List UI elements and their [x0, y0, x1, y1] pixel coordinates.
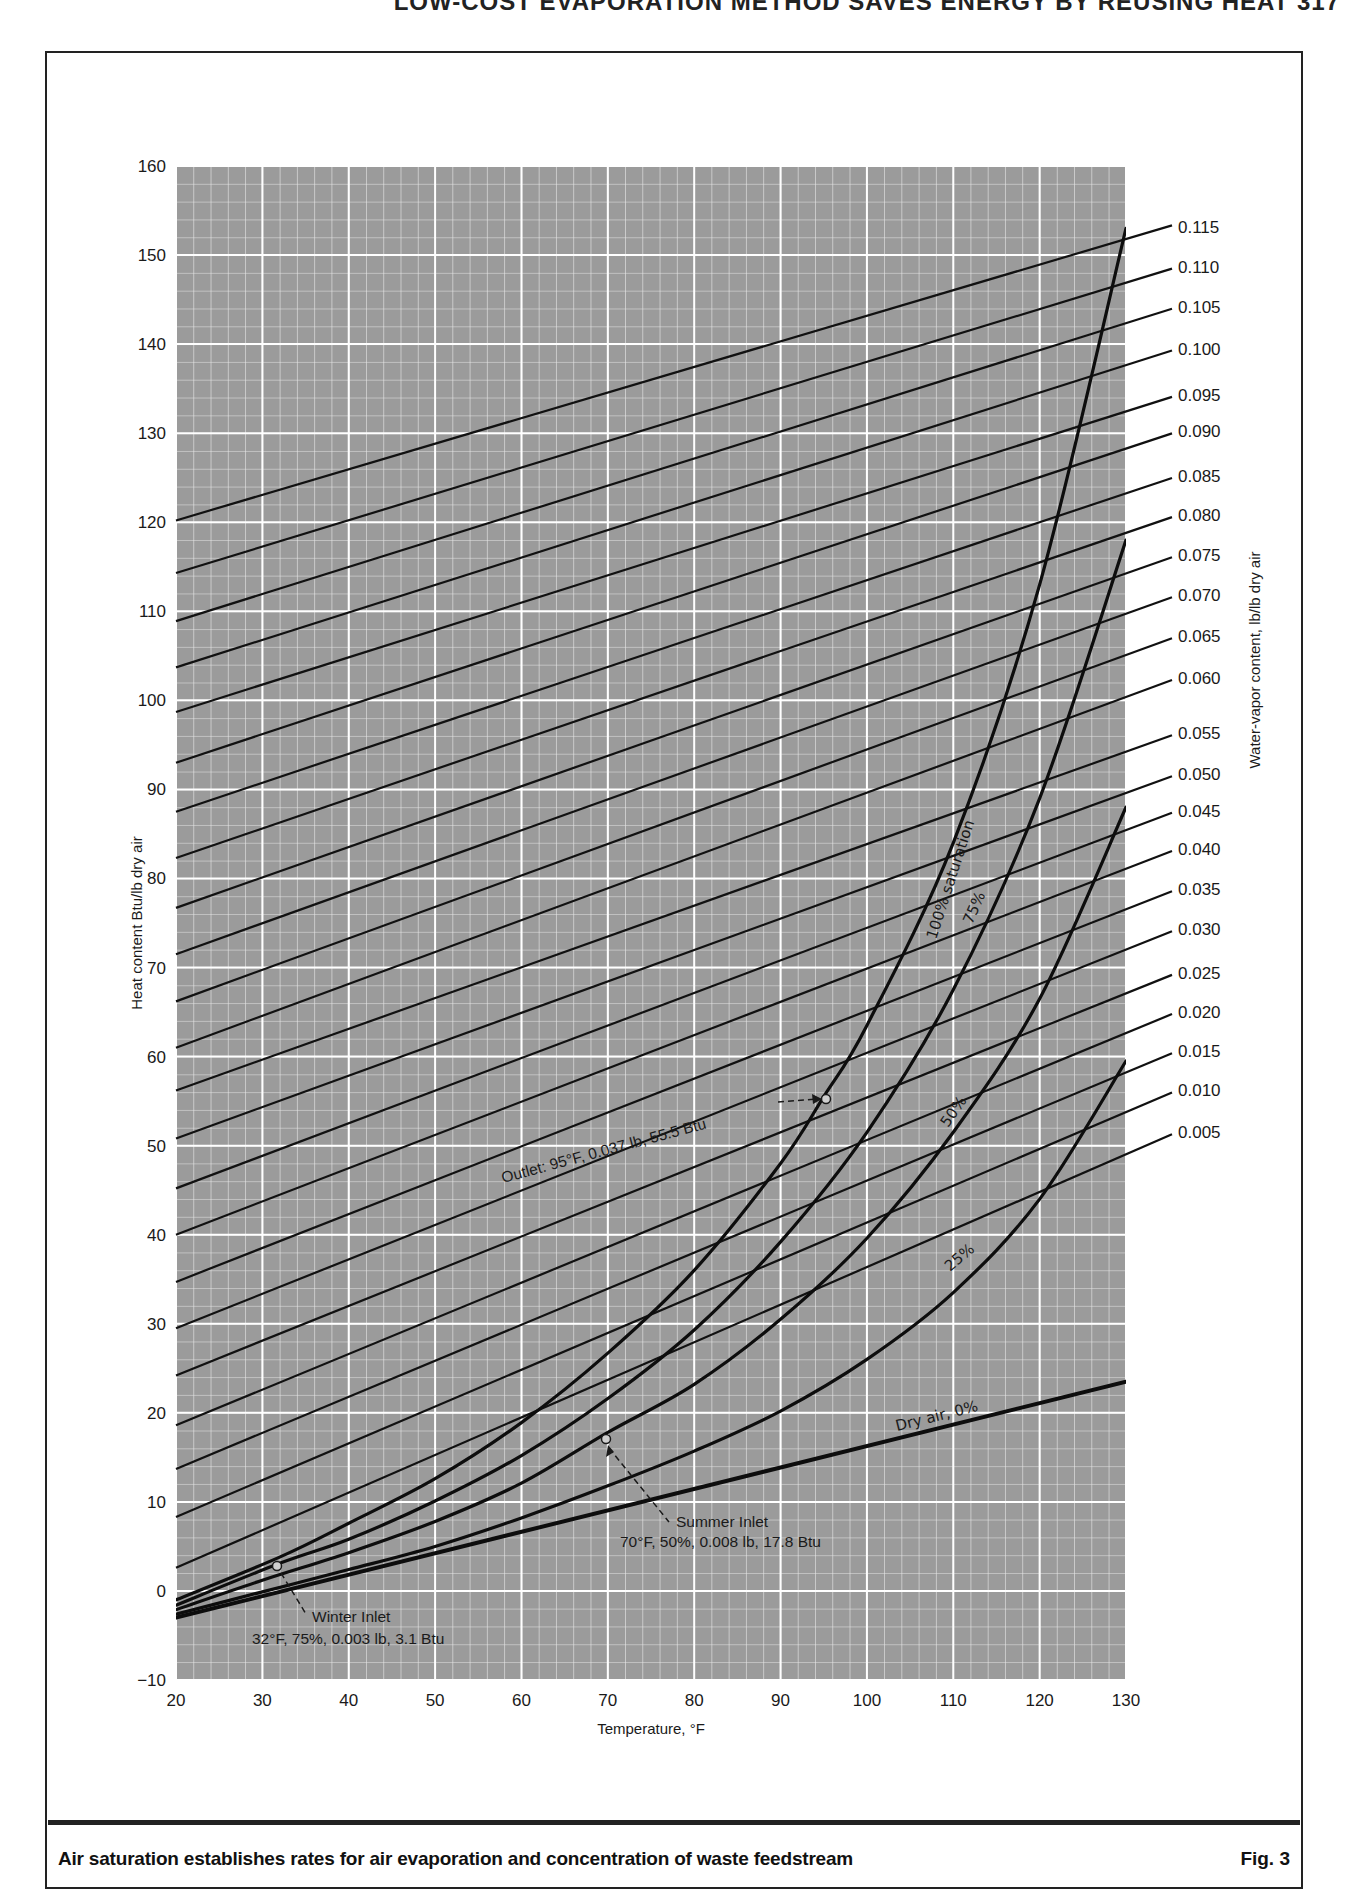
x-axis-ticks: 2030405060708090100110120130 [167, 1691, 1141, 1710]
y-tick-label: −10 [137, 1671, 166, 1690]
x-tick-label: 100 [853, 1691, 881, 1710]
water-vapor-label: 0.100 [1178, 340, 1221, 359]
y-tick-label: 100 [138, 691, 166, 710]
x-tick-label: 20 [167, 1691, 186, 1710]
y-tick-label: 50 [147, 1137, 166, 1156]
svg-text:Summer Inlet: Summer Inlet [676, 1513, 769, 1530]
figure-number: Fig. 3 [1240, 1848, 1290, 1870]
x-tick-label: 120 [1025, 1691, 1053, 1710]
y-tick-label: 130 [138, 424, 166, 443]
x-tick-label: 80 [685, 1691, 704, 1710]
y-tick-label: 20 [147, 1404, 166, 1423]
svg-text:32°F, 75%, 0.003 lb, 3.1 Btu: 32°F, 75%, 0.003 lb, 3.1 Btu [252, 1630, 444, 1647]
caption-rule [48, 1820, 1300, 1825]
water-vapor-label: 0.105 [1178, 298, 1221, 317]
water-vapor-label: 0.005 [1178, 1123, 1221, 1142]
water-vapor-label: 0.010 [1178, 1081, 1221, 1100]
water-vapor-label: 0.115 [1178, 218, 1219, 237]
water-vapor-labels: 0.1150.1100.1050.1000.0950.0900.0850.080… [1178, 218, 1221, 1143]
x-tick-label: 130 [1112, 1691, 1140, 1710]
y-tick-label: 110 [139, 602, 166, 621]
water-vapor-label: 0.065 [1178, 627, 1221, 646]
y-tick-label: 40 [147, 1226, 166, 1245]
water-vapor-label: 0.055 [1178, 724, 1221, 743]
x-tick-label: 90 [771, 1691, 790, 1710]
water-vapor-label: 0.040 [1178, 840, 1221, 859]
svg-text:70°F, 50%, 0.008 lb, 17.8 Btu: 70°F, 50%, 0.008 lb, 17.8 Btu [620, 1533, 821, 1550]
y-tick-label: 140 [138, 335, 166, 354]
water-vapor-label: 0.015 [1178, 1042, 1221, 1061]
y-tick-label: 30 [147, 1315, 166, 1334]
y-tick-label: 0 [157, 1582, 166, 1601]
water-vapor-label: 0.045 [1178, 802, 1221, 821]
water-vapor-label: 0.110 [1178, 258, 1219, 277]
svg-text:Winter Inlet: Winter Inlet [312, 1608, 391, 1625]
water-vapor-label: 0.095 [1178, 386, 1221, 405]
water-vapor-label: 0.090 [1178, 422, 1221, 441]
x-tick-label: 70 [598, 1691, 617, 1710]
water-vapor-label: 0.060 [1178, 669, 1221, 688]
y-tick-label: 90 [147, 780, 166, 799]
water-vapor-label: 0.080 [1178, 506, 1221, 525]
y-tick-label: 60 [147, 1048, 166, 1067]
y-tick-label: 80 [147, 869, 166, 888]
x-tick-label: 110 [940, 1691, 967, 1710]
x-axis-title: Temperature, °F [597, 1720, 705, 1737]
x-tick-label: 60 [512, 1691, 531, 1710]
water-vapor-label: 0.035 [1178, 880, 1221, 899]
water-vapor-label: 0.050 [1178, 765, 1221, 784]
water-vapor-label: 0.075 [1178, 546, 1221, 565]
x-tick-label: 30 [253, 1691, 272, 1710]
y-axis-title: Heat content Btu/lb dry air [128, 836, 145, 1009]
y2-axis-title: Water-vapor content, lb/lb dry air [1246, 551, 1263, 768]
y-tick-label: 70 [147, 959, 166, 978]
y-tick-label: 10 [147, 1493, 166, 1512]
water-vapor-label: 0.085 [1178, 467, 1221, 486]
water-vapor-label: 0.070 [1178, 586, 1221, 605]
water-vapor-label: 0.030 [1178, 920, 1221, 939]
water-vapor-label: 0.020 [1178, 1003, 1221, 1022]
y-tick-label: 120 [138, 513, 166, 532]
x-tick-label: 50 [426, 1691, 445, 1710]
psychrometric-chart: −100102030405060708090100110120130140150… [0, 0, 1352, 1800]
y-tick-label: 160 [138, 157, 166, 176]
figure-caption: Air saturation establishes rates for air… [58, 1848, 853, 1870]
y-tick-label: 150 [138, 246, 166, 265]
water-vapor-label: 0.025 [1178, 964, 1221, 983]
x-tick-label: 40 [339, 1691, 358, 1710]
